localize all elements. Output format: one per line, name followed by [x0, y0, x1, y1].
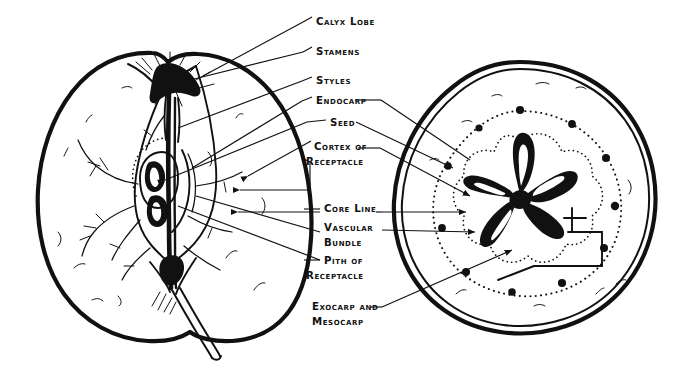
leader-vascular-left: [196, 196, 320, 232]
carpel-lower-right: [523, 202, 564, 239]
label-core-line: Core Line: [324, 203, 376, 214]
label-vascular-bundle-line2: Bundle: [324, 237, 362, 248]
left-apple-stem-2: [180, 288, 220, 356]
right-apple-cross-section: [394, 62, 656, 333]
label-styles: Styles: [316, 75, 351, 86]
apple-anatomy-illustration: Calyx Lobe Stamens Styles Endocarp Seed …: [0, 0, 677, 374]
left-styles: [165, 96, 167, 140]
leader-endocarp-right: [381, 100, 470, 160]
leader-cortex-left: [248, 146, 302, 176]
left-apple-stem: [172, 290, 212, 358]
label-stamens: Stamens: [316, 46, 360, 57]
label-pith-of-receptacle-line1: Pith of: [324, 255, 363, 266]
carpel-lower-left: [480, 201, 516, 247]
left-vascular-bundles-right: [184, 172, 242, 270]
left-styles-2: [178, 98, 180, 142]
left-seed-upper: [145, 161, 165, 192]
label-endocarp: Endocarp: [316, 95, 366, 106]
leader-pith-left: [178, 206, 320, 260]
leader-stub-seed: [307, 120, 326, 122]
left-stem-base-hatch: [152, 292, 176, 314]
leader-calyx-lobe: [203, 22, 303, 76]
figure-canvas: Calyx Lobe Stamens Styles Endocarp Seed …: [0, 0, 677, 374]
leader-stub-styles: [302, 77, 312, 81]
label-texts: Calyx Lobe Stamens Styles Endocarp Seed …: [306, 16, 378, 327]
left-apple-longitudinal-section: [38, 52, 312, 360]
label-pith-of-receptacle-line2: Receptacle: [306, 270, 364, 281]
left-seed-lower: [147, 195, 168, 227]
label-cortex-of-receptacle-line2: Receptacle: [306, 156, 364, 167]
leader-seed-left: [165, 122, 307, 180]
leader-stub-cortex: [302, 141, 311, 146]
label-exocarp-and-mesocarp-line1: Exocarp and: [312, 301, 378, 312]
label-cortex-of-receptacle-line1: Cortex of: [314, 141, 367, 152]
carpel-left: [463, 176, 514, 198]
label-vascular-bundle-line1: Vascular: [324, 222, 373, 233]
leader-stub-endocarp: [302, 97, 312, 101]
label-exocarp-and-mesocarp-line2: Mesocarp: [312, 316, 364, 327]
left-basal-fill: [159, 255, 184, 285]
label-seed: Seed: [330, 117, 355, 128]
leader-stub-stamens: [303, 47, 312, 52]
carpel-center: [509, 190, 531, 209]
label-calyx-lobe: Calyx Lobe: [316, 16, 375, 27]
carpel-up: [513, 133, 535, 194]
leader-stub-calyx: [303, 17, 312, 22]
carpel-upper-right: [524, 171, 578, 202]
